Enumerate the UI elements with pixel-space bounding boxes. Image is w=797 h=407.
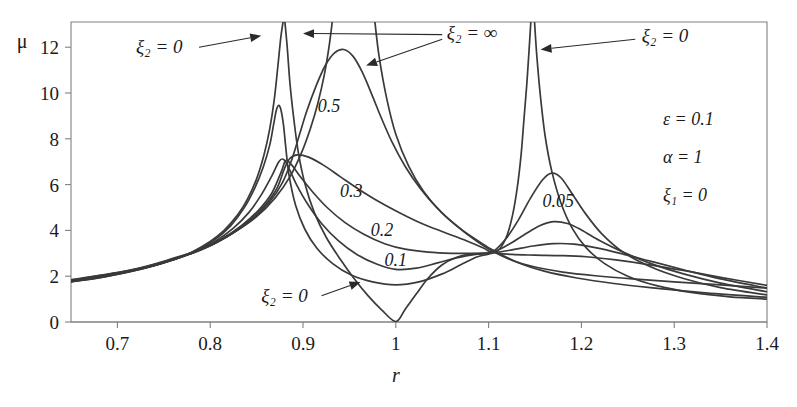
curve-label-0-5: 0.5 <box>318 96 341 116</box>
annotation-xi2-zero-bottom: ξ₂ = 0 <box>261 285 308 306</box>
annotation-xi2-infinity: ξ₂ = ∞ <box>447 22 498 43</box>
y-axis-title: μ <box>17 30 28 53</box>
x-tick-label: 1.4 <box>755 333 779 354</box>
y-tick-label: 12 <box>40 37 59 58</box>
curve-label-0-3: 0.3 <box>340 181 363 201</box>
x-tick-label: 1 <box>391 333 401 354</box>
x-tick-label: 0.7 <box>106 333 130 354</box>
y-tick-label: 10 <box>40 83 59 104</box>
param-alpha: α = 1 <box>663 147 703 167</box>
annotation-xi2-zero-left: ξ₂ = 0 <box>136 36 183 57</box>
x-tick-label: 0.9 <box>291 333 315 354</box>
param-xi1: ξ₁ = 0 <box>663 185 707 205</box>
x-tick-label: 1.1 <box>477 333 501 354</box>
curve-label-0-1: 0.1 <box>385 250 408 270</box>
x-tick-label: 1.2 <box>570 333 594 354</box>
x-tick-label: 1.3 <box>662 333 686 354</box>
frequency-response-chart: 0.70.80.911.11.21.31.4 024681012 ξ₂ = 0ξ… <box>0 0 797 407</box>
curve-label-0-2: 0.2 <box>371 220 394 240</box>
param-epsilon: ε = 0.1 <box>663 109 714 129</box>
annotation-xi2-zero-right: ξ₂ = 0 <box>642 25 689 46</box>
y-tick-label: 6 <box>50 175 60 196</box>
y-tick-label: 2 <box>50 266 60 287</box>
x-tick-label: 0.8 <box>198 333 222 354</box>
x-axis-title: r <box>392 364 400 386</box>
curve-label-0-05: 0.05 <box>542 191 574 211</box>
y-tick-label: 8 <box>50 129 60 150</box>
y-tick-label: 4 <box>50 220 60 241</box>
y-tick-label: 0 <box>50 312 60 333</box>
